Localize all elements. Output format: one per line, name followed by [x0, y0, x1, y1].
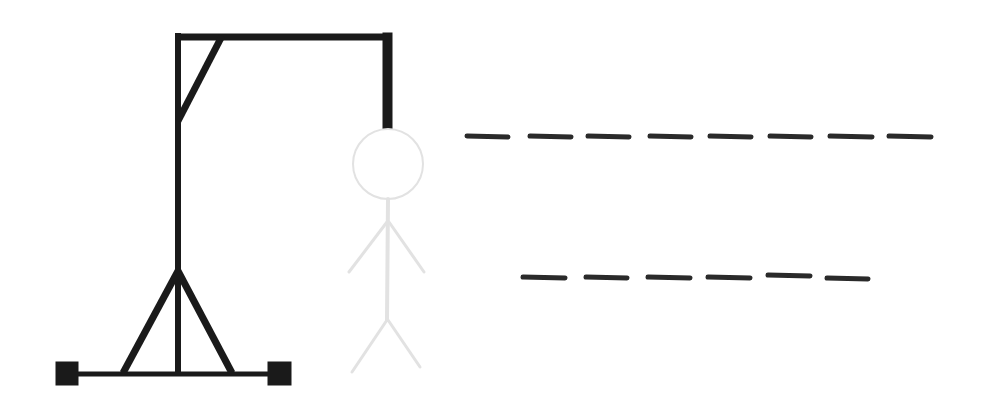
letter-blank: [586, 277, 627, 278]
letter-blank: [830, 136, 872, 137]
gallows-support-right: [178, 271, 232, 373]
letter-blank: [530, 136, 571, 137]
gallows-brace: [178, 36, 222, 121]
figure-arm-left: [349, 222, 387, 272]
word-row-2: [523, 275, 868, 279]
gallows-icon: [56, 33, 392, 385]
figure-leg-left: [352, 320, 387, 372]
gallows-support-left: [123, 271, 178, 373]
hangman-canvas: [0, 0, 982, 403]
figure-arm-right: [389, 222, 424, 272]
stick-figure-icon: [349, 129, 424, 372]
letter-blank: [889, 136, 931, 137]
figure-body: [387, 199, 388, 320]
gallows-rope: [383, 33, 392, 129]
figure-leg-right: [388, 320, 420, 367]
letter-blank: [708, 277, 750, 278]
letter-blank: [710, 136, 751, 137]
letter-blank: [523, 277, 565, 278]
letter-blank: [467, 136, 508, 137]
letter-blank: [650, 136, 691, 137]
letter-blank: [588, 136, 629, 137]
word-row-1: [467, 136, 931, 137]
hangman-game-board: [0, 0, 982, 403]
letter-blank: [648, 277, 690, 278]
letter-blank: [770, 136, 811, 137]
letter-blank: [768, 275, 810, 276]
figure-head: [353, 129, 423, 199]
letter-blank: [827, 278, 868, 279]
